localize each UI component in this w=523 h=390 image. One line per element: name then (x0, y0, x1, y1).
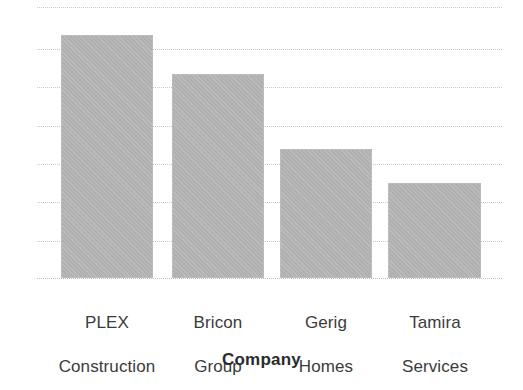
x-tick-label-line1: Gerig (266, 312, 386, 334)
x-tick-label-gerig-homes: Gerig Homes (266, 290, 386, 390)
x-axis-title: Company (0, 350, 523, 370)
x-tick-label-tamira-services: Tamira Services (375, 290, 495, 390)
bar-gerig-homes[interactable] (280, 149, 372, 278)
x-tick-label-line1: Tamira (375, 312, 495, 334)
x-tick-label-bricon-group: Bricon Group (158, 290, 278, 390)
x-tick-label-line1: PLEX (47, 312, 167, 334)
bar-chart: PLEX Construction Bricon Group Gerig Hom… (0, 0, 523, 390)
bar-tamira-services[interactable] (388, 183, 481, 278)
x-tick-label-plex-construction: PLEX Construction (47, 290, 167, 390)
bar-bricon-group[interactable] (172, 74, 264, 278)
bar-plex-construction[interactable] (61, 35, 153, 278)
x-tick-label-line1: Bricon (158, 312, 278, 334)
